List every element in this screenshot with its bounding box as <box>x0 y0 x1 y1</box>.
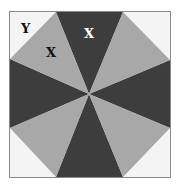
label-corner-y: Y <box>20 21 31 36</box>
label-dark-x: X <box>84 26 95 41</box>
label-light-x: X <box>46 45 57 60</box>
octagon-diagram: Y X X <box>0 0 181 188</box>
